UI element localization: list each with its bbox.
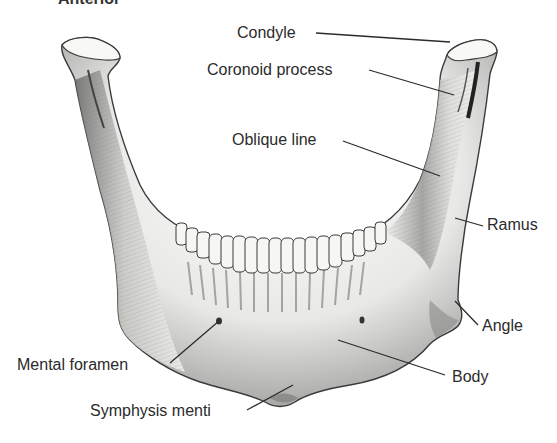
label-symphysis-menti: Symphysis menti — [90, 402, 211, 420]
label-angle: Angle — [482, 317, 523, 335]
label-oblique-line: Oblique line — [232, 131, 317, 149]
mandible-bone — [62, 37, 497, 406]
label-coronoid-process: Coronoid process — [207, 61, 332, 79]
label-condyle: Condyle — [237, 24, 296, 42]
leader-condyle — [316, 33, 450, 42]
mental-foramen-right — [360, 317, 365, 324]
leader-oblique — [343, 141, 440, 176]
label-body: Body — [452, 368, 488, 386]
mandible-diagram: Anterior — [0, 0, 557, 443]
label-mental-foramen: Mental foramen — [17, 356, 128, 374]
label-ramus: Ramus — [487, 216, 538, 234]
